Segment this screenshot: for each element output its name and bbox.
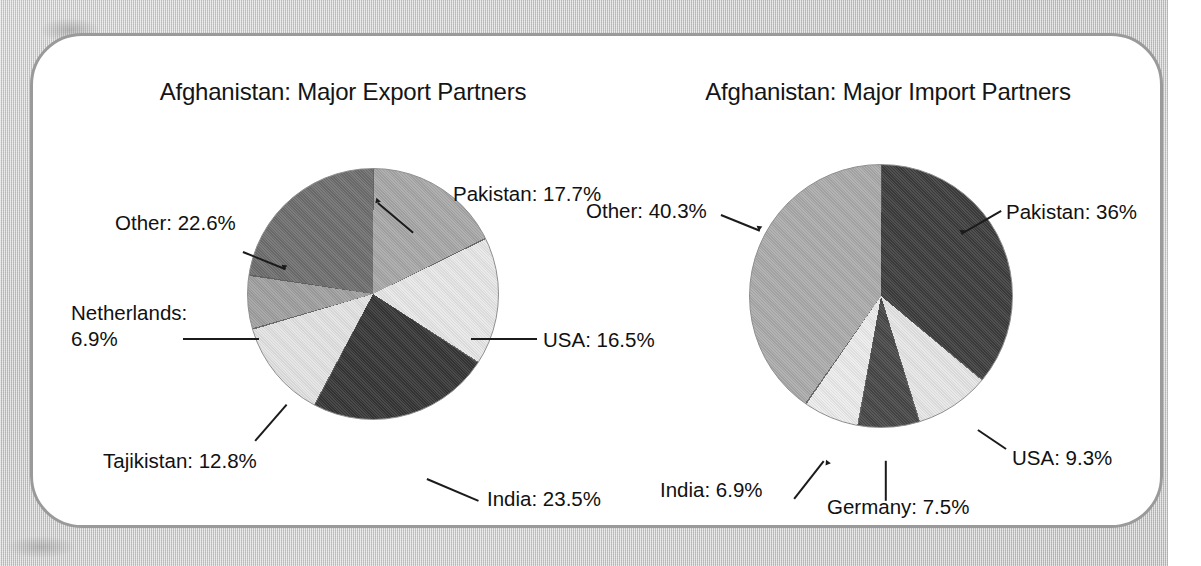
export-leader-netherlands (183, 338, 259, 340)
export-label-india: India: 23.5% (487, 486, 601, 512)
import-label-pakistan: Pakistan: 36% (1006, 199, 1137, 225)
charts-panel: Afghanistan: Major Export Partners Pakis… (30, 33, 1163, 528)
figure-page: Afghanistan: Major Export Partners Pakis… (0, 0, 1201, 566)
export-partners-chart: Afghanistan: Major Export Partners Pakis… (63, 36, 623, 525)
paper-smudge-bottom (6, 536, 76, 558)
import-pie-separators (750, 165, 1012, 427)
import-leader-india (793, 460, 824, 499)
import-chart-title: Afghanistan: Major Import Partners (608, 78, 1168, 106)
import-label-india: India: 6.9% (660, 477, 763, 503)
import-pie-texture (750, 165, 1012, 427)
import-partners-chart: Afghanistan: Major Import Partners Pakis… (608, 36, 1168, 525)
export-leader-india (427, 478, 479, 501)
import-leader-usa (978, 429, 1007, 449)
import-label-usa: USA: 9.3% (1012, 445, 1112, 471)
import-pie-graphic (749, 164, 1013, 428)
page-right-margin (1168, 0, 1201, 566)
export-label-other: Other: 22.6% (115, 210, 236, 236)
import-pie-wrap (749, 164, 1013, 428)
import-label-other: Other: 40.3% (586, 198, 707, 224)
export-leader-usa (471, 338, 537, 340)
export-label-netherlands: Netherlands: 6.9% (71, 300, 191, 351)
import-label-germany: Germany: 7.5% (827, 494, 969, 520)
export-label-tajikistan: Tajikistan: 12.8% (103, 448, 257, 474)
import-arrowhead-india (823, 460, 831, 468)
export-chart-title: Afghanistan: Major Export Partners (63, 78, 623, 106)
export-label-pakistan: Pakistan: 17.7% (453, 181, 601, 207)
